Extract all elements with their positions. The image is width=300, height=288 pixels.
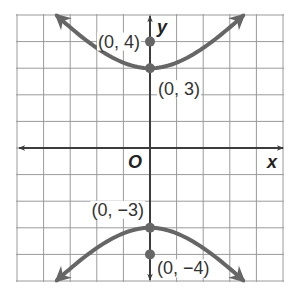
axes (19, 16, 283, 280)
point-label: (0, −4) (157, 258, 210, 278)
x-axis-label: x (266, 152, 278, 172)
point-label: (0, 4) (98, 32, 140, 52)
origin-label: O (128, 152, 142, 172)
point-label: (0, −3) (91, 200, 144, 220)
point-marker (145, 223, 155, 233)
point-marker (145, 63, 155, 73)
point-marker (145, 249, 155, 259)
point-marker (145, 37, 155, 47)
y-axis-label: y (156, 17, 168, 37)
point-label: (0, 3) (158, 79, 200, 99)
hyperbola-graph: x y O (0, 4)(0, 3)(0, −3)(0, −4) (0, 0, 300, 288)
